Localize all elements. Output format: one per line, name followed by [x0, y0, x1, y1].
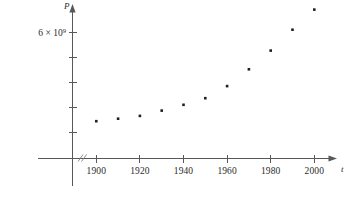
x-tick-label-1900: 1900: [87, 166, 107, 176]
data-point: [204, 97, 207, 100]
x-axis-group: [38, 155, 337, 163]
x-tick-label-1960: 1960: [217, 166, 237, 176]
data-point: [269, 49, 272, 52]
data-point: [160, 109, 163, 112]
x-tick-label-1980: 1980: [261, 166, 281, 176]
data-point: [182, 104, 185, 107]
x-axis-label-t: t: [341, 164, 344, 174]
plot-canvas: 1900 1920 1940 1960 1980 2000 6 × 109 P …: [0, 0, 356, 199]
y-tick-label-6e9: 6 × 109: [38, 26, 66, 38]
data-point: [248, 68, 251, 71]
x-tick-label-2000: 2000: [305, 166, 325, 176]
y-tick-label-mantissa: 6 × 10: [38, 28, 63, 38]
data-point: [226, 85, 229, 88]
data-point: [139, 115, 142, 118]
y-axis-arrowhead: [69, 4, 75, 13]
data-point: [95, 120, 98, 123]
x-tick-labels: 1900 1920 1940 1960 1980 2000: [87, 166, 325, 176]
x-axis-arrowhead: [329, 155, 338, 161]
data-point: [291, 28, 294, 31]
data-point-series: [95, 8, 316, 122]
y-axis-label-P: P: [63, 1, 70, 11]
scatter-plot-figure: 1900 1920 1940 1960 1980 2000 6 × 109 P …: [0, 0, 356, 199]
data-point: [117, 117, 120, 120]
x-tick-label-1920: 1920: [130, 166, 150, 176]
x-tick-label-1940: 1940: [174, 166, 194, 176]
y-tick-label-exponent: 9: [63, 26, 67, 33]
data-point: [313, 8, 316, 11]
